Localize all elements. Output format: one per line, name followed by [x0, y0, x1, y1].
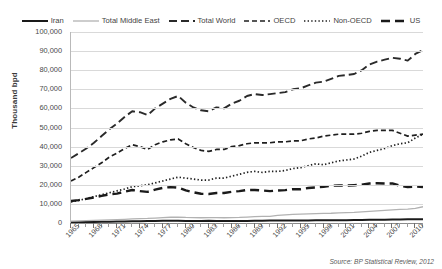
x-axis-tick — [200, 223, 201, 227]
x-axis-tick-labels: 1965196819711974197719801983198619891992… — [70, 228, 422, 258]
gridline — [71, 147, 423, 148]
legend-swatch-dot-icon — [304, 17, 330, 25]
y-axis-tick-label: 40,000 — [39, 143, 62, 150]
gridline — [71, 166, 423, 167]
gridlines — [71, 32, 423, 223]
x-axis-tick — [338, 223, 339, 227]
legend-label: Iran — [51, 17, 64, 25]
gridline — [71, 89, 423, 90]
y-axis-tick-label: 100,000 — [35, 28, 62, 35]
legend-swatch-solid-thick-icon — [22, 17, 48, 25]
legend-label: US — [410, 17, 421, 25]
x-axis-tick — [269, 223, 270, 227]
source-note: Source: BP Statistical Review, 2012 — [329, 258, 434, 265]
gridline — [71, 128, 423, 129]
y-axis-tick-label: 80,000 — [39, 66, 62, 73]
legend-label: Non-OECD — [333, 17, 371, 25]
x-axis-tick — [292, 223, 293, 227]
legend-swatch-longdash-marker-icon — [169, 17, 195, 25]
x-axis-tick — [85, 223, 86, 227]
y-axis-tick-label: 30,000 — [39, 162, 62, 169]
x-axis-tick — [131, 223, 132, 227]
legend-label: Total World — [198, 17, 236, 25]
y-axis-tick-label: 50,000 — [39, 124, 62, 131]
y-axis-tick-label: 60,000 — [39, 105, 62, 112]
y-axis-tick-label: 0 — [58, 219, 62, 226]
legend-swatch-thickdash-marker-icon — [381, 17, 407, 25]
chart-container: IranTotal Middle EastTotal WorldOECDNon-… — [0, 0, 442, 269]
legend-swatch-dash-icon — [244, 17, 270, 25]
x-axis-tick — [246, 223, 247, 227]
y-axis-tick-label: 10,000 — [39, 200, 62, 207]
y-axis-tick-label: 70,000 — [39, 86, 62, 93]
legend-item-non-oecd[interactable]: Non-OECD — [304, 17, 371, 25]
x-axis-tick — [361, 223, 362, 227]
plot-area — [70, 32, 423, 223]
gridline — [71, 70, 423, 71]
legend-swatch-solid-light-icon — [73, 17, 99, 25]
gridline — [71, 51, 423, 52]
legend-item-iran[interactable]: Iran — [22, 17, 64, 25]
legend-label: Total Middle East — [102, 17, 160, 25]
x-axis-tick — [177, 223, 178, 227]
x-axis-tick — [108, 223, 109, 227]
y-axis-tick-label: 20,000 — [39, 181, 62, 188]
y-axis-tick-labels: 100,00090,00080,00070,00060,00050,00040,… — [0, 32, 66, 223]
x-axis-tick — [407, 223, 408, 227]
legend-item-us[interactable]: US — [381, 17, 421, 25]
legend-item-total-world[interactable]: Total World — [169, 17, 236, 25]
legend-item-total-middle-east[interactable]: Total Middle East — [73, 17, 160, 25]
legend-item-oecd[interactable]: OECD — [244, 17, 295, 25]
x-axis-tick — [223, 223, 224, 227]
gridline — [71, 32, 423, 33]
x-axis-tick — [154, 223, 155, 227]
x-axis-tick — [315, 223, 316, 227]
gridline — [71, 204, 423, 205]
x-axis-tick — [384, 223, 385, 227]
gridline — [71, 185, 423, 186]
y-axis-tick-label: 90,000 — [39, 47, 62, 54]
legend-label: OECD — [273, 17, 295, 25]
chart-legend: IranTotal Middle EastTotal WorldOECDNon-… — [0, 14, 442, 28]
gridline — [71, 108, 423, 109]
x-axis-tick-label: 1965 — [64, 222, 81, 239]
